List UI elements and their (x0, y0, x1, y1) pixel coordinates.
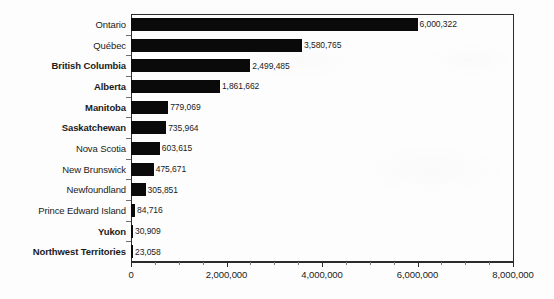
bar-value-label: 23,058 (135, 247, 161, 257)
x-axis-minor-tick (489, 262, 490, 265)
category-axis-labels: OntarioQuébecBritish ColumbiaAlbertaMani… (0, 14, 126, 262)
bar (131, 225, 133, 238)
category-label: New Brunswick (0, 164, 126, 175)
bar-value-label: 779,069 (170, 102, 200, 112)
x-axis-major-tick (131, 262, 132, 267)
bar (131, 80, 220, 93)
x-axis-major-tick (513, 262, 514, 267)
x-axis-tick-label: 2,000,000 (206, 269, 247, 281)
y-axis-tick (126, 35, 131, 36)
category-label: Prince Edward Island (0, 205, 126, 216)
bar-value-label: 30,909 (135, 226, 161, 236)
x-axis-minor-tick (370, 262, 371, 265)
y-axis-tick (126, 97, 131, 98)
category-label: Saskatchewan (0, 122, 126, 133)
x-axis-major-tick (227, 262, 228, 267)
y-axis-tick (126, 117, 131, 118)
x-axis-minor-tick (346, 262, 347, 265)
category-label: Northwest Territories (0, 246, 126, 257)
bar-value-label: 3,580,765 (304, 40, 341, 50)
x-axis-minor-tick (298, 262, 299, 265)
bar-chart: OntarioQuébecBritish ColumbiaAlbertaMani… (0, 0, 554, 299)
bars-layer: 6,000,3223,580,7652,499,4851,861,662779,… (131, 14, 514, 262)
bar-value-label: 603,615 (162, 143, 192, 153)
category-label: British Columbia (0, 60, 126, 71)
x-axis-minor-tick (441, 262, 442, 265)
category-label: Ontario (0, 19, 126, 30)
category-label: Yukon (0, 226, 126, 237)
y-axis-tick (126, 159, 131, 160)
bar (131, 39, 302, 52)
x-axis-minor-tick (203, 262, 204, 265)
bar (131, 121, 166, 134)
bar (131, 101, 168, 114)
category-label: Québec (0, 40, 126, 51)
bar (131, 18, 418, 31)
category-label: Newfoundland (0, 184, 126, 195)
bar-value-label: 6,000,322 (420, 19, 457, 29)
x-axis-major-tick (322, 262, 323, 267)
x-axis-minor-tick (179, 262, 180, 265)
x-axis-minor-tick (274, 262, 275, 265)
bar-value-label: 84,716 (137, 205, 163, 215)
y-axis-tick (126, 179, 131, 180)
x-axis-major-tick (418, 262, 419, 267)
bar (131, 59, 250, 72)
x-axis-minor-tick (465, 262, 466, 265)
x-axis-minor-tick (155, 262, 156, 265)
x-axis-tick-label: 8,000,000 (492, 269, 533, 281)
bar-value-label: 475,671 (156, 164, 186, 174)
y-axis-tick (126, 200, 131, 201)
y-axis-tick (126, 55, 131, 56)
category-label: Manitoba (0, 102, 126, 113)
bar-value-label: 305,851 (148, 185, 178, 195)
bar-value-label: 1,861,662 (222, 81, 259, 91)
bar-value-label: 735,964 (168, 123, 198, 133)
bar (131, 245, 133, 258)
category-label: Alberta (0, 81, 126, 92)
x-axis-tick-label: 4,000,000 (301, 269, 342, 281)
bar (131, 163, 154, 176)
y-axis-tick (126, 138, 131, 139)
x-axis-tick-label: 0 (128, 269, 133, 281)
y-axis-tick (126, 241, 131, 242)
bar (131, 183, 146, 196)
bar-value-label: 2,499,485 (252, 61, 289, 71)
bar (131, 204, 135, 217)
x-axis-tick-label: 6,000,000 (397, 269, 438, 281)
y-axis-tick (126, 76, 131, 77)
x-axis-minor-tick (250, 262, 251, 265)
x-axis-minor-tick (394, 262, 395, 265)
category-label: Nova Scotia (0, 143, 126, 154)
bar (131, 142, 160, 155)
y-axis-tick (126, 221, 131, 222)
